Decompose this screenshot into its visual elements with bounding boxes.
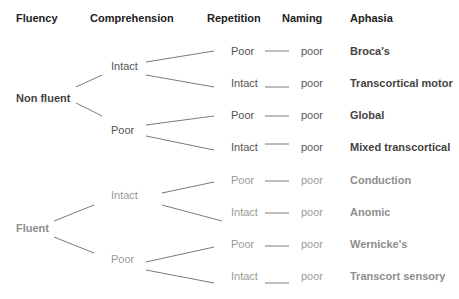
- repetition-value: Intact: [231, 206, 258, 219]
- naming-value: poor: [301, 206, 323, 219]
- repetition-value: Poor: [231, 174, 254, 187]
- repetition-value: Intact: [231, 77, 258, 90]
- aphasia-type: Anomic: [350, 206, 390, 219]
- header-fluency: Fluency: [16, 12, 58, 25]
- header-naming: Naming: [282, 12, 322, 25]
- aphasia-type: Broca's: [350, 45, 390, 58]
- repetition-value: Poor: [231, 238, 254, 251]
- comprehension-node: Intact: [111, 189, 138, 202]
- aphasia-type: Transcortical motor: [350, 77, 453, 90]
- naming-value: poor: [301, 109, 323, 122]
- aphasia-type: Conduction: [350, 174, 411, 187]
- repetition-value: Intact: [231, 141, 258, 154]
- header-aphasia: Aphasia: [350, 12, 393, 25]
- header-repetition: Repetition: [207, 12, 261, 25]
- comprehension-node: Poor: [111, 253, 134, 266]
- fluency-node-non-fluent: Non fluent: [16, 92, 70, 105]
- repetition-value: Poor: [231, 45, 254, 58]
- naming-value: poor: [301, 174, 323, 187]
- naming-value: poor: [301, 77, 323, 90]
- fluency-node-fluent: Fluent: [16, 222, 49, 235]
- comprehension-node: Intact: [111, 60, 138, 73]
- naming-value: poor: [301, 45, 323, 58]
- repetition-value: Poor: [231, 109, 254, 122]
- header-comprehension: Comprehension: [90, 12, 174, 25]
- aphasia-type: Transcort sensory: [350, 270, 445, 283]
- comprehension-node: Poor: [111, 124, 134, 137]
- aphasia-type: Wernicke's: [350, 238, 407, 251]
- aphasia-type: Mixed transcortical: [350, 141, 450, 154]
- repetition-value: Intact: [231, 270, 258, 283]
- naming-value: poor: [301, 270, 323, 283]
- naming-value: poor: [301, 141, 323, 154]
- aphasia-type: Global: [350, 109, 384, 122]
- naming-value: poor: [301, 238, 323, 251]
